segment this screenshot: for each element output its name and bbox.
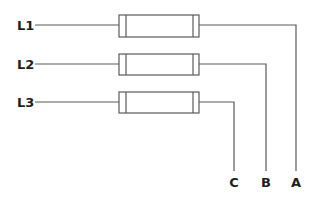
input-label-l3: L3 <box>17 95 34 110</box>
input-label-l1: L1 <box>17 18 34 33</box>
fuse-1 <box>119 15 199 37</box>
fuse-3 <box>119 92 199 113</box>
output-wire-a <box>199 25 296 171</box>
output-label-c: C <box>229 175 239 190</box>
input-label-l2: L2 <box>17 57 34 72</box>
output-wire-b <box>199 64 266 171</box>
fuse-2 <box>119 54 199 75</box>
output-label-b: B <box>261 175 271 190</box>
output-label-a: A <box>291 175 301 190</box>
output-wire-c <box>199 102 234 171</box>
fuse-wiring-diagram: L1 L2 L3 C B A <box>0 0 318 198</box>
